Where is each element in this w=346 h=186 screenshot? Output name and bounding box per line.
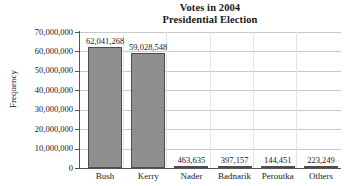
category-label: Others (296, 171, 346, 181)
category-separator (296, 32, 297, 168)
chart-title-line-1: Votes in 2004 (80, 2, 340, 14)
y-axis-tick-label: 70,000,000 (35, 28, 73, 37)
category-separator (210, 32, 211, 168)
y-axis-tick-label: 40,000,000 (35, 86, 73, 95)
chart-title-line-2: Presidential Election (80, 14, 340, 26)
y-axis-tick-label: 50,000,000 (35, 66, 73, 75)
y-axis-tick-label: 60,000,000 (35, 47, 73, 56)
bar-value-label: 223,249 (296, 156, 346, 165)
y-axis-tick-label: 10,000,000 (35, 144, 73, 153)
bar-chart: Votes in 2004 Presidential Election Freq… (0, 0, 346, 186)
plot-area (80, 32, 341, 168)
category-separator (123, 32, 124, 168)
y-axis-tick-label: 20,000,000 (35, 125, 73, 134)
y-axis-tick-label: 0 (69, 164, 73, 173)
y-axis-title: Frequency (8, 49, 18, 129)
category-separator (253, 32, 254, 168)
y-axis-tick (75, 71, 80, 72)
y-axis-tick (75, 110, 80, 111)
y-axis-tick-label: 30,000,000 (35, 105, 73, 114)
bar (131, 53, 165, 168)
y-axis-tick (75, 51, 80, 52)
y-axis-tick (75, 168, 80, 169)
category-separator (166, 32, 167, 168)
y-axis-tick (75, 32, 80, 33)
y-axis-tick (75, 90, 80, 91)
y-axis-tick (75, 129, 80, 130)
y-axis-tick (75, 149, 80, 150)
bar-value-label: 59,028,548 (123, 43, 173, 52)
bar (88, 47, 122, 168)
chart-title: Votes in 2004 Presidential Election (80, 2, 340, 25)
x-axis-line (76, 168, 341, 169)
